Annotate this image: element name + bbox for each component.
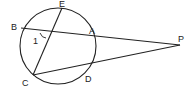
secant-BP — [21, 28, 180, 45]
label-B: B — [11, 22, 17, 32]
geometry-diagram: E B A C D P 1 — [0, 0, 186, 96]
circle — [20, 8, 96, 84]
label-D: D — [85, 74, 92, 84]
label-P: P — [178, 34, 184, 44]
label-C: C — [22, 78, 29, 88]
secant-CP — [33, 45, 180, 75]
angle-1-label: 1 — [33, 36, 38, 46]
angle-1-arc — [40, 33, 46, 38]
label-A: A — [89, 26, 95, 36]
label-E: E — [59, 0, 65, 9]
